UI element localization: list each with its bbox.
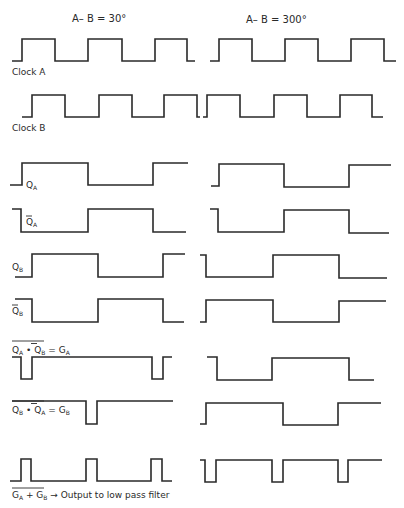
wave-left-qb-bar [15, 299, 184, 322]
label-output: GA + GB → Output to low pass filter [12, 488, 170, 501]
svg-text:QA: QA [26, 180, 38, 191]
header-right: A– B = 300° [246, 14, 307, 25]
label-qa-bar: QA [26, 216, 38, 228]
wave-right-clock-a [210, 39, 396, 61]
label-gb-expression: QB • QA = GB [12, 401, 70, 416]
label-qb: QB [12, 262, 23, 273]
header-left: A– B = 30° [72, 13, 126, 24]
wave-right-qb-bar [200, 300, 386, 322]
wave-left-output [10, 459, 172, 481]
label-qa: QA [26, 180, 38, 191]
wave-left-clock-b [22, 95, 200, 117]
wave-left-qa [10, 163, 188, 185]
wave-right-gb [200, 403, 381, 425]
right-column [200, 39, 396, 482]
wave-left-ga [12, 357, 172, 379]
svg-text:QB: QB [12, 306, 23, 317]
wave-left-qb [15, 254, 185, 277]
wave-left-clock-a [12, 39, 195, 61]
wave-right-qa-bar [210, 209, 389, 233]
label-qb-bar: QB [12, 305, 23, 317]
timing-diagram: A– B = 30° A– B = 300° Clock A Clock B Q… [0, 0, 404, 508]
label-clock-a: Clock A [12, 67, 46, 77]
wave-left-qa-bar [12, 209, 186, 232]
svg-text:GA + GB → Output to low pass f: GA + GB → Output to low pass filter [12, 490, 170, 501]
wave-right-output [200, 460, 382, 482]
wave-right-qb [200, 255, 387, 278]
label-ga-expression: QA • QB = GA [12, 341, 71, 356]
svg-text:QA • QB = GA: QA • QB = GA [12, 345, 71, 356]
wave-right-clock-b [203, 95, 383, 117]
arrow-right-icon: → [47, 490, 60, 500]
wave-right-qa [211, 164, 391, 187]
label-clock-b: Clock B [12, 123, 46, 133]
svg-text:QB: QB [12, 262, 23, 273]
svg-text:QA: QA [26, 217, 38, 228]
wave-right-ga [207, 357, 374, 380]
svg-text:QB • QA = GB: QB • QA = GB [12, 405, 70, 416]
